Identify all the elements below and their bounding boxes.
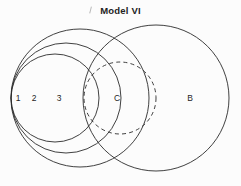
region-label-c: C: [112, 94, 122, 103]
region-label-b: B: [185, 94, 195, 103]
venn-diagram-canvas: [0, 0, 241, 186]
region-label-2: 2: [29, 94, 39, 103]
venn-circle-2: [11, 43, 121, 153]
region-label-3: 3: [54, 94, 64, 103]
region-label-1: 1: [13, 94, 23, 103]
figure-root: Model VI 1 2 3 C B: [0, 0, 241, 186]
